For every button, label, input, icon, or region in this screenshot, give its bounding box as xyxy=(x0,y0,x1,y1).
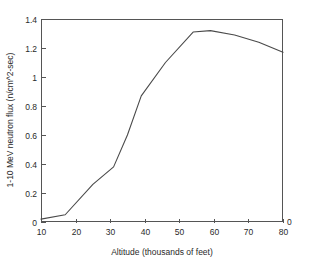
chart-canvas: 00.20.40.60.811.21.4 1020304050607080 0 … xyxy=(0,0,310,267)
bottom-right-zero-label: 0 xyxy=(287,217,292,227)
x-tick-label-20: 20 xyxy=(72,227,82,237)
y-tick-label-1.4: 1.4 xyxy=(25,15,37,25)
y-tick-label-0.2: 0.2 xyxy=(25,189,37,199)
x-axis-title: Altitude (thousands of feet) xyxy=(111,247,213,257)
x-tick-label-40: 40 xyxy=(141,227,151,237)
x-tick-label-30: 30 xyxy=(106,227,116,237)
neutron-flux-line-chart: 00.20.40.60.811.21.4 1020304050607080 0 … xyxy=(0,0,310,267)
y-tick-label-0.8: 0.8 xyxy=(25,102,37,112)
y-tick-label-1.2: 1.2 xyxy=(25,44,37,54)
y-tick-label-0: 0 xyxy=(32,218,37,228)
y-axis-title: 1-10 MeV neutron flux (n/cm^2-sec) xyxy=(5,52,15,187)
x-tick-label-50: 50 xyxy=(175,227,185,237)
chart-background xyxy=(0,0,310,267)
y-tick-label-0.6: 0.6 xyxy=(25,131,37,141)
y-tick-label-1: 1 xyxy=(32,73,37,83)
y-tick-label-0.4: 0.4 xyxy=(25,160,37,170)
x-tick-label-70: 70 xyxy=(244,227,254,237)
x-tick-label-10: 10 xyxy=(37,227,47,237)
x-tick-label-60: 60 xyxy=(210,227,220,237)
x-tick-label-80: 80 xyxy=(279,227,289,237)
